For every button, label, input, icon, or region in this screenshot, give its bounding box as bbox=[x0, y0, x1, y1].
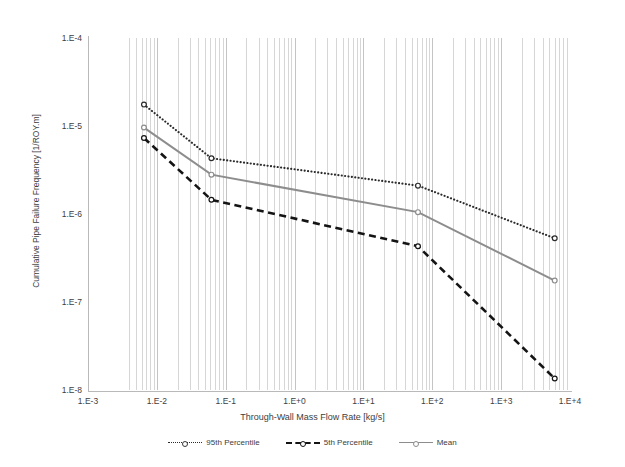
series-layer bbox=[0, 0, 625, 467]
series-line bbox=[144, 138, 555, 379]
chart-legend: 95th Percentile 5th Percentile Mean bbox=[0, 438, 625, 447]
legend-label: 5th Percentile bbox=[324, 438, 373, 447]
data-point-marker bbox=[416, 183, 421, 188]
legend-item-95th-percentile[interactable]: 95th Percentile bbox=[168, 438, 259, 447]
legend-item-5th-percentile[interactable]: 5th Percentile bbox=[286, 438, 373, 447]
data-point-marker bbox=[416, 244, 421, 249]
solid-line-icon bbox=[399, 438, 433, 447]
data-point-marker bbox=[142, 136, 147, 141]
data-point-marker bbox=[209, 197, 214, 202]
data-point-marker bbox=[552, 236, 557, 241]
legend-item-mean[interactable]: Mean bbox=[399, 438, 457, 447]
legend-label: Mean bbox=[437, 438, 457, 447]
series-line bbox=[144, 128, 555, 281]
dotted-line-icon bbox=[168, 438, 202, 447]
chart-figure: Cumulative Pipe Failure Frequency [1/ROY… bbox=[0, 0, 625, 467]
data-point-marker bbox=[209, 156, 214, 161]
data-point-marker bbox=[209, 172, 214, 177]
data-point-marker bbox=[552, 376, 557, 381]
data-point-marker bbox=[416, 210, 421, 215]
legend-label: 95th Percentile bbox=[206, 438, 259, 447]
x-axis-title: Through-Wall Mass Flow Rate [kg/s] bbox=[0, 412, 625, 422]
data-point-marker bbox=[142, 102, 147, 107]
data-point-marker bbox=[142, 125, 147, 130]
dashed-line-icon bbox=[286, 438, 320, 447]
data-point-marker bbox=[552, 278, 557, 283]
